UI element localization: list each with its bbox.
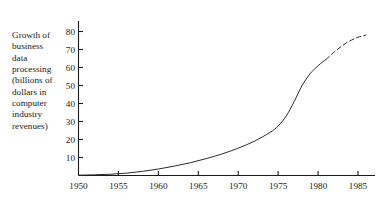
y-axis-tick-label: 20 xyxy=(66,135,76,145)
y-axis-tick-label: 70 xyxy=(66,45,76,55)
x-axis-tick-label: 1950 xyxy=(69,181,88,191)
data-series xyxy=(79,35,366,175)
x-axis-tick-label: 1960 xyxy=(149,181,168,191)
y-axis-tick-label: 80 xyxy=(66,27,76,37)
y-axis-tick-label: 30 xyxy=(66,117,76,127)
x-axis-tick-label: 1985 xyxy=(349,181,368,191)
x-axis-tick-label: 1980 xyxy=(309,181,328,191)
y-axis-tick-label: 40 xyxy=(66,99,76,109)
x-axis-tick-label: 1955 xyxy=(109,181,128,191)
series-line-projected xyxy=(326,35,366,59)
series-line-actual xyxy=(79,59,327,175)
x-axis-tick-label: 1970 xyxy=(229,181,248,191)
x-axis-tick-label: 1975 xyxy=(269,181,288,191)
growth-line-chart: 1020304050607080 19501955196019651970197… xyxy=(0,0,389,210)
y-axis-tick-label: 60 xyxy=(66,63,76,73)
x-axis-tick-label: 1965 xyxy=(189,181,208,191)
y-axis: 1020304050607080 xyxy=(66,21,83,176)
chart-page: Growth of business data processing (bill… xyxy=(0,0,389,210)
y-axis-tick-label: 10 xyxy=(66,153,76,163)
y-axis-tick-label: 50 xyxy=(66,81,76,91)
